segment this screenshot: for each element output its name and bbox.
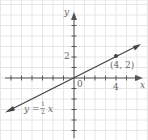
y-axis-label: y <box>63 7 70 17</box>
y-axis <box>71 12 77 138</box>
x-axis-label: x <box>140 80 145 90</box>
equation-prefix: y = <box>23 104 40 114</box>
point-4-2 <box>114 54 118 58</box>
y-axis-arrow-icon <box>71 12 77 20</box>
equation-suffix: x <box>48 104 53 114</box>
y-tick-label-2: 2 <box>64 51 70 61</box>
origin-label: 0 <box>77 79 83 89</box>
x-tick-label-4: 4 <box>113 82 119 92</box>
equation-label: y = 1 2 x <box>23 100 53 115</box>
coordinate-plane: y x 0 4 2 (4, 2) y = 1 2 x <box>0 0 148 140</box>
point-label: (4, 2) <box>110 60 134 70</box>
equation-fraction-denominator: 2 <box>41 108 45 115</box>
equation-fraction-numerator: 1 <box>41 100 45 107</box>
